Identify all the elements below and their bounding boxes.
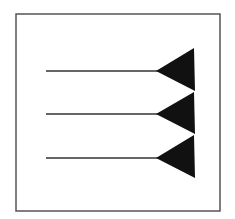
arrowhead-icon (156, 135, 195, 178)
arrow-2 (46, 92, 195, 134)
arrow-1 (46, 48, 195, 91)
arrow-diagram (0, 0, 235, 219)
arrowhead-icon (156, 92, 195, 134)
arrow-3 (46, 135, 195, 178)
arrowhead-icon (156, 48, 195, 91)
arrow-group (46, 48, 195, 178)
